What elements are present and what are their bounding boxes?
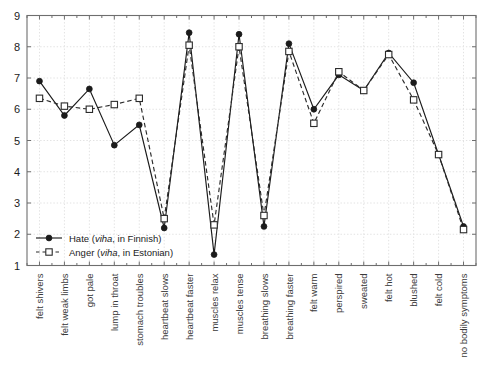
x-axis-tick-label: blushed [408, 274, 419, 307]
x-axis-tick-label: felt cold [433, 274, 444, 307]
x-axis-tick-label: perspired [333, 274, 344, 314]
data-point-anger [261, 212, 267, 218]
data-point-anger [111, 101, 117, 107]
y-axis-tick-label: 7 [14, 72, 20, 84]
y-axis-tick-label: 6 [14, 103, 20, 115]
data-point-anger [385, 51, 391, 57]
data-point-anger [136, 95, 142, 101]
data-point-anger [236, 44, 242, 50]
x-axis-tick-label: no bodily symptoms [458, 273, 469, 357]
data-point-anger [161, 215, 167, 221]
y-axis-tick-labels: 123456789 [14, 10, 20, 272]
data-point-hate [211, 252, 217, 258]
data-point-anger [336, 69, 342, 75]
data-point-hate [286, 41, 292, 47]
legend-label-hate: Hate (viha, in Finnish) [69, 233, 161, 244]
data-point-hate [37, 78, 43, 84]
data-point-anger [211, 222, 217, 228]
x-axis-tick-label: felt shivers [34, 273, 45, 319]
y-axis-tick-label: 4 [14, 166, 20, 178]
x-axis-tick-label: heartbeat faster [184, 274, 195, 341]
data-point-anger [311, 120, 317, 126]
chart-background [0, 0, 493, 372]
data-point-hate [136, 122, 142, 128]
data-point-hate [411, 80, 417, 86]
data-point-hate [86, 86, 92, 92]
x-axis-tick-label: stomach troubles [134, 273, 145, 346]
x-axis-tick-label: felt weak limbs [59, 273, 70, 336]
chart-container: 123456789 felt shiversfelt weak limbsgot… [0, 0, 493, 372]
data-point-hate [261, 224, 267, 230]
data-point-hate [311, 106, 317, 112]
y-axis-tick-label: 2 [14, 228, 20, 240]
x-axis-tick-label: sweated [358, 274, 369, 309]
data-point-anger [61, 103, 67, 109]
y-axis-tick-label: 9 [14, 10, 20, 22]
x-axis-tick-label: lump in throat [109, 273, 120, 331]
x-axis-tick-label: breathing slows [259, 273, 270, 339]
data-point-anger [36, 95, 42, 101]
legend-marker-hate [46, 235, 52, 241]
x-axis-tick-label: breathing faster [284, 274, 295, 340]
x-axis-tick-label: muscles tense [234, 274, 245, 335]
data-point-hate [62, 113, 68, 119]
legend-label-anger: Anger (viha, in Estonian) [69, 247, 173, 258]
data-point-anger [460, 226, 466, 232]
y-axis-tick-label: 8 [14, 41, 20, 53]
x-axis-tick-label: felt hot [383, 273, 394, 302]
x-axis-tick-label: got pale [84, 274, 95, 308]
y-axis-tick-label: 3 [14, 197, 20, 209]
y-axis-tick-label: 1 [14, 260, 20, 272]
data-point-hate [186, 30, 192, 36]
y-axis-tick-label: 5 [14, 135, 20, 147]
data-point-anger [410, 97, 416, 103]
data-point-hate [236, 31, 242, 37]
data-point-hate [111, 142, 117, 148]
x-axis-tick-label: heartbeat slows [159, 273, 170, 340]
data-point-anger [435, 151, 441, 157]
data-point-anger [86, 106, 92, 112]
data-point-anger [286, 48, 292, 54]
x-axis-tick-label: muscles relax [209, 273, 220, 331]
legend-marker-anger [46, 249, 52, 255]
line-chart: 123456789 felt shiversfelt weak limbsgot… [0, 0, 493, 372]
data-point-hate [161, 225, 167, 231]
data-point-anger [361, 87, 367, 93]
data-point-anger [186, 42, 192, 48]
x-axis-tick-label: felt warm [308, 273, 319, 312]
